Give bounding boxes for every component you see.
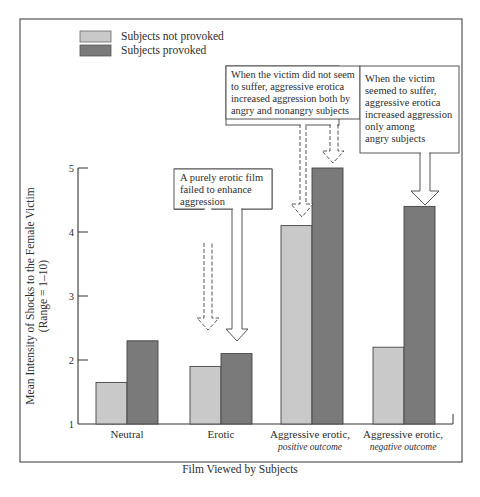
y-tick-4: 4 — [69, 227, 75, 238]
legend-label-not-provoked: Subjects not provoked — [121, 30, 224, 43]
bar-provoked-1 — [221, 354, 252, 424]
annotation-erotic: A purely erotic film failed to enhance a… — [174, 169, 272, 209]
bar-provoked-0 — [127, 341, 158, 424]
legend-label-provoked: Subjects provoked — [121, 44, 207, 57]
legend-swatch-not-provoked — [80, 31, 111, 42]
annotation-positive-outcome: When the victim did not seem to suffer, … — [226, 66, 360, 125]
x-label-aggressive-positive: Aggressive erotic, — [270, 428, 350, 440]
y-axis-title: Mean Intensity of Shocks to the Female V… — [24, 187, 37, 404]
bar-provoked-3 — [404, 206, 435, 424]
figure: Subjects not provoked Subjects provoked … — [0, 0, 480, 497]
x-axis-title: Film Viewed by Subjects — [182, 463, 298, 476]
legend-swatch-provoked — [80, 45, 111, 56]
x-label-aggressive-negative-sub: negative outcome — [370, 442, 437, 452]
y-tick-1: 1 — [69, 419, 74, 430]
y-tick-5: 5 — [69, 163, 74, 174]
bar-provoked-2 — [312, 168, 343, 424]
bar-not-provoked-2 — [281, 226, 312, 424]
x-label-erotic: Erotic — [208, 428, 235, 440]
y-tick-3: 3 — [69, 291, 74, 302]
bar-not-provoked-0 — [96, 382, 127, 424]
x-label-aggressive-positive-sub: positive outcome — [277, 442, 342, 452]
x-label-aggressive-negative: Aggressive erotic, — [363, 428, 443, 440]
bar-not-provoked-1 — [190, 366, 221, 424]
x-label-neutral: Neutral — [111, 428, 144, 440]
bar-not-provoked-3 — [373, 347, 404, 424]
y-tick-2: 2 — [69, 355, 74, 366]
y-axis-subtitle: (Range = 1–10) — [37, 260, 50, 332]
annotation-positive-text: When the victim did not seem to suffer, … — [231, 69, 357, 116]
annotation-negative-outcome: When the victim seemed to suffer, aggres… — [360, 66, 459, 153]
